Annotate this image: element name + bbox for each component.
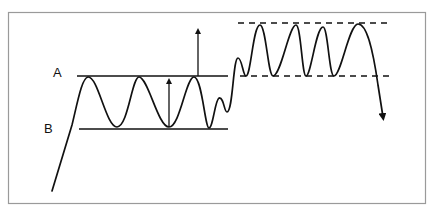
label-a: A: [53, 65, 62, 80]
label-b: B: [44, 121, 53, 136]
diagram-frame: [9, 13, 426, 204]
pattern-diagram: [0, 0, 432, 213]
